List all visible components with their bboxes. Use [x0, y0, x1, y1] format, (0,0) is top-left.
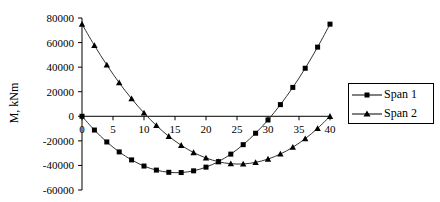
triangle-marker-icon	[178, 142, 184, 148]
y-tick-label: -60000	[43, 184, 75, 196]
square-marker-icon	[253, 131, 258, 136]
x-tick-label: 0	[79, 123, 85, 135]
y-tick-label: 40000	[47, 61, 75, 73]
x-tick-label: 35	[294, 123, 306, 135]
triangle-marker-icon	[290, 144, 296, 150]
legend-item-span-1: Span 1	[349, 86, 433, 104]
legend-label: Span 2	[384, 106, 417, 121]
y-tick-label: 80000	[47, 12, 75, 24]
triangle-marker-icon	[79, 21, 85, 27]
square-marker-icon	[228, 152, 233, 157]
y-axis-label: M, kNm	[7, 82, 21, 123]
x-tick-label: 15	[170, 123, 182, 135]
square-marker-icon	[129, 157, 134, 162]
x-tick-label: 10	[139, 123, 151, 135]
square-marker-icon	[315, 45, 320, 50]
square-marker-icon	[80, 114, 85, 119]
axes: 800006000040000200000-20000-40000-600000…	[43, 12, 336, 196]
y-tick-label: -40000	[43, 159, 75, 171]
x-tick-label: 40	[325, 123, 337, 135]
x-tick-label: 5	[110, 123, 116, 135]
square-marker-icon	[166, 170, 171, 175]
y-tick-label: 60000	[47, 37, 75, 49]
square-marker-icon	[278, 102, 283, 107]
square-marker-icon	[117, 149, 122, 154]
square-marker-icon	[179, 170, 184, 175]
square-marker-icon	[241, 142, 246, 147]
triangle-marker-icon	[277, 151, 283, 157]
square-marker-icon	[266, 117, 271, 122]
x-tick-label: 25	[232, 123, 244, 135]
square-marker-icon	[191, 168, 196, 173]
x-tick-label: 20	[201, 123, 213, 135]
triangle-marker-icon	[352, 108, 384, 120]
square-marker-icon	[328, 22, 333, 27]
y-tick-label: 20000	[47, 86, 75, 98]
square-marker-icon	[92, 128, 97, 133]
legend-label: Span 1	[384, 87, 417, 102]
x-tick-label: 30	[263, 123, 275, 135]
series-layer	[79, 21, 333, 175]
square-marker-icon	[204, 165, 209, 170]
square-marker-icon	[290, 85, 295, 90]
series-span-2	[79, 21, 333, 167]
series-span-1	[80, 22, 333, 175]
legend: Span 1 Span 2	[348, 83, 434, 124]
square-marker-icon	[142, 164, 147, 169]
triangle-marker-icon	[104, 62, 110, 68]
legend-item-span-2: Span 2	[349, 105, 433, 123]
square-marker-icon	[352, 89, 384, 101]
triangle-marker-icon	[203, 155, 209, 161]
square-marker-icon	[104, 139, 109, 144]
series-line	[82, 24, 330, 164]
square-marker-icon	[303, 66, 308, 71]
y-tick-label: 0	[69, 110, 75, 122]
square-marker-icon	[154, 168, 159, 173]
triangle-marker-icon	[91, 42, 97, 48]
triangle-marker-icon	[190, 149, 196, 155]
y-tick-label: -20000	[43, 135, 75, 147]
